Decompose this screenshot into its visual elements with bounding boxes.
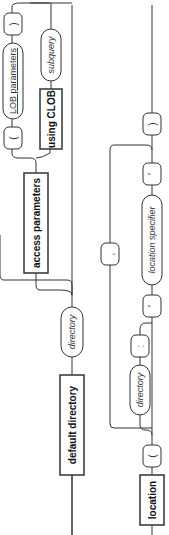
using-clob-label: using CLOB [46,90,57,148]
directory-nonterminal-2: directory [130,365,150,415]
row2-diagram: location ( directory : ' location specif… [101,5,164,535]
comma-terminal: , [101,243,119,265]
default-directory-label: default directory [67,385,78,464]
syntax-diagram: default directory directory access param… [0,0,169,535]
subquery-label: subquery [46,36,56,74]
open-paren-terminal: ( [4,127,22,149]
close-paren-terminal: ) [4,13,22,35]
using-clob-box: using CLOB [40,89,62,149]
lob-parameters-label[interactable]: LOB parameters [8,47,18,114]
location-specifier-nonterminal: location specifier [142,195,162,285]
location-box: location [140,475,164,525]
default-directory-box: default directory [60,375,84,475]
quote-open-terminal: ' [143,295,161,317]
colon-terminal: : [131,335,149,357]
svg-text:': ' [147,173,158,175]
svg-text:,: , [105,253,116,256]
directory-label: directory [67,314,77,349]
row1-diagram: default directory directory access param… [0,3,84,535]
svg-text:location specifier: location specifier [147,205,157,273]
svg-text:(: ( [147,454,158,458]
svg-text:): ) [8,22,19,25]
svg-text:': ' [147,305,158,307]
svg-text:(: ( [8,136,19,140]
location-label: location [147,481,158,519]
svg-text:): ) [147,122,158,125]
access-parameters-box: access parameters [24,173,48,273]
access-parameters-label: access parameters [31,178,42,269]
svg-text:directory: directory [135,372,145,407]
svg-text::: : [135,345,146,348]
directory-nonterminal: directory [61,307,83,357]
close-paren-terminal-2: ) [143,113,161,135]
open-paren-terminal-2: ( [143,445,161,467]
subquery-nonterminal: subquery [41,29,61,81]
lob-parameters-nonterminal: LOB parameters [3,43,23,119]
quote-close-terminal: ' [143,163,161,185]
